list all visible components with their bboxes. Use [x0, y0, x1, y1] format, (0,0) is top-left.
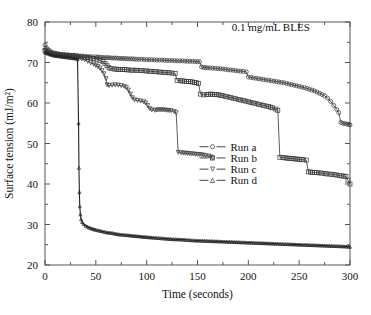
y-tick-label-50: 50 — [27, 138, 39, 150]
chart-plot: 05010015020025030020304050607080Time (se… — [0, 0, 371, 315]
legend-label-run-d: Run d — [231, 174, 258, 186]
x-tick-label-50: 50 — [90, 270, 102, 282]
y-tick-label-40: 40 — [27, 178, 39, 190]
x-tick-label-150: 150 — [189, 270, 206, 282]
x-tick-label-100: 100 — [138, 270, 155, 282]
y-tick-label-30: 30 — [27, 219, 39, 231]
x-tick-label-250: 250 — [291, 270, 308, 282]
data-marker-circle — [210, 145, 214, 149]
series-line — [45, 51, 213, 158]
y-tick-label-70: 70 — [27, 57, 39, 69]
figure-container: 05010015020025030020304050607080Time (se… — [0, 0, 371, 315]
data-marker-triangle-up — [210, 178, 214, 182]
legend-label-run-c: Run c — [231, 163, 257, 175]
x-tick-label-300: 300 — [342, 270, 359, 282]
y-tick-label-60: 60 — [27, 97, 39, 109]
chart-annotation-0: 0.1 mg/mL BLES — [232, 21, 310, 33]
x-axis-label: Time (seconds) — [162, 288, 233, 301]
x-tick-label-200: 200 — [240, 270, 257, 282]
data-marker-triangle-down — [210, 167, 214, 171]
x-tick-label-0: 0 — [42, 270, 48, 282]
legend-label-run-a: Run a — [231, 141, 257, 153]
series-line — [45, 50, 350, 184]
y-tick-label-20: 20 — [27, 259, 39, 271]
legend-label-run-b: Run b — [231, 152, 258, 164]
y-tick-label-80: 80 — [27, 16, 39, 28]
y-axis-label: Surface tension (mJ/m²) — [3, 88, 16, 199]
